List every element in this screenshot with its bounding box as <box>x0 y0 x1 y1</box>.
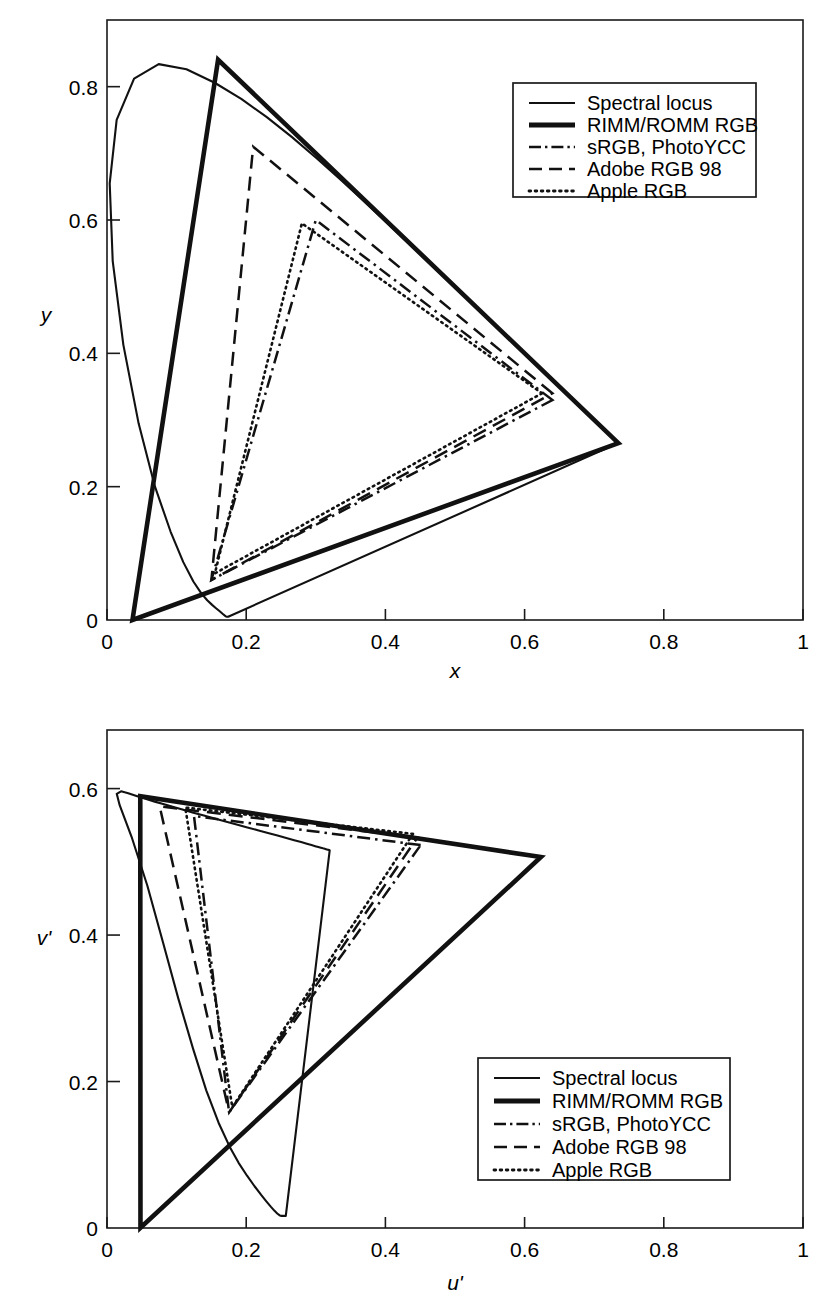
legend-label: RIMM/ROMM RGB <box>587 114 758 136</box>
uv-y-axis-title: v' <box>37 926 53 949</box>
legend-label: Spectral locus <box>552 1067 678 1089</box>
legend-label: Apple RGB <box>587 180 687 202</box>
cie-xy-svg: 00.20.40.60.81 00.20.40.60.8 x y Spectra… <box>0 0 836 690</box>
uv-plot-area: 00.20.40.60.81 00.20.40.6 <box>69 730 809 1261</box>
xy-y-tick-labels: 00.20.40.60.8 <box>69 76 99 632</box>
srgb-gamut-triangle <box>194 816 421 1112</box>
legend-label: RIMM/ROMM RGB <box>552 1090 723 1112</box>
uv-x-tick-marks <box>107 1217 803 1228</box>
uv-y-tick-labels: 00.20.40.6 <box>69 778 99 1240</box>
adobe-gamut-triangle <box>211 147 552 580</box>
legend-label: sRGB, PhotoYCC <box>587 136 746 158</box>
legend-label: Adobe RGB 98 <box>552 1136 687 1158</box>
xy-x-axis-title: x <box>449 659 462 682</box>
xy-y-axis-title: y <box>39 303 53 326</box>
xy-x-tick-labels: 00.20.40.60.81 <box>101 630 809 653</box>
legend-label: Apple RGB <box>552 1159 652 1181</box>
tick-label: 0.6 <box>510 1238 539 1261</box>
tick-label: 0.8 <box>649 630 678 653</box>
cie-uv-svg: 00.20.40.60.81 00.20.40.6 u' v' Spectral… <box>0 690 836 1314</box>
tick-label: 0.4 <box>371 630 401 653</box>
uv-y-tick-marks <box>107 789 120 1082</box>
tick-label: 0.4 <box>69 342 99 365</box>
cie-xy-chromaticity-chart: 00.20.40.60.81 00.20.40.60.8 x y Spectra… <box>0 0 836 690</box>
uv-x-tick-labels: 00.20.40.60.81 <box>101 1238 809 1261</box>
tick-label: 0.4 <box>69 924 99 947</box>
xy-x-tick-marks <box>107 609 803 620</box>
tick-label: 0.2 <box>69 476 98 499</box>
tick-label: 0 <box>86 1217 98 1240</box>
srgb-gamut-triangle <box>211 220 552 580</box>
tick-label: 0 <box>101 1238 113 1261</box>
tick-label: 0.2 <box>232 630 261 653</box>
tick-label: 0.6 <box>69 778 98 801</box>
tick-label: 0.4 <box>371 1238 401 1261</box>
tick-label: 0.6 <box>69 209 98 232</box>
legend-label: Adobe RGB 98 <box>587 158 722 180</box>
uv-x-axis-title: u' <box>447 1271 464 1294</box>
apple-gamut-triangle <box>215 223 542 573</box>
tick-label: 1 <box>797 630 809 653</box>
tick-label: 0 <box>101 630 113 653</box>
tick-label: 0 <box>86 609 98 632</box>
tick-label: 0.8 <box>649 1238 678 1261</box>
tick-label: 0.8 <box>69 76 98 99</box>
apple-gamut-triangle <box>185 808 413 1108</box>
tick-label: 0.2 <box>69 1071 98 1094</box>
uv-legend: Spectral locusRIMM/ROMM RGBsRGB, PhotoYC… <box>478 1058 730 1181</box>
legend-label: sRGB, PhotoYCC <box>552 1113 711 1135</box>
legend-label: Spectral locus <box>587 92 713 114</box>
tick-label: 1 <box>797 1238 809 1261</box>
tick-label: 0.6 <box>510 630 539 653</box>
cie-uv-chromaticity-chart: 00.20.40.60.81 00.20.40.6 u' v' Spectral… <box>0 690 836 1314</box>
tick-label: 0.2 <box>232 1238 261 1261</box>
xy-legend: Spectral locusRIMM/ROMM RGBsRGB, PhotoYC… <box>513 83 758 202</box>
